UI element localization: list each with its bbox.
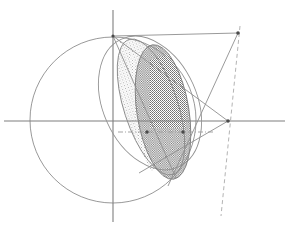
chord-left-point	[145, 130, 148, 133]
dark-ellipse-upper-lens	[150, 52, 188, 128]
figure-root	[0, 0, 289, 230]
chord-right-point	[181, 130, 184, 133]
right-vertex-point	[226, 119, 230, 123]
upper-right-point	[236, 31, 240, 35]
geometry-canvas	[0, 0, 289, 230]
apex-to-upper-right-horizontal	[113, 33, 238, 36]
apex-point	[111, 34, 114, 37]
